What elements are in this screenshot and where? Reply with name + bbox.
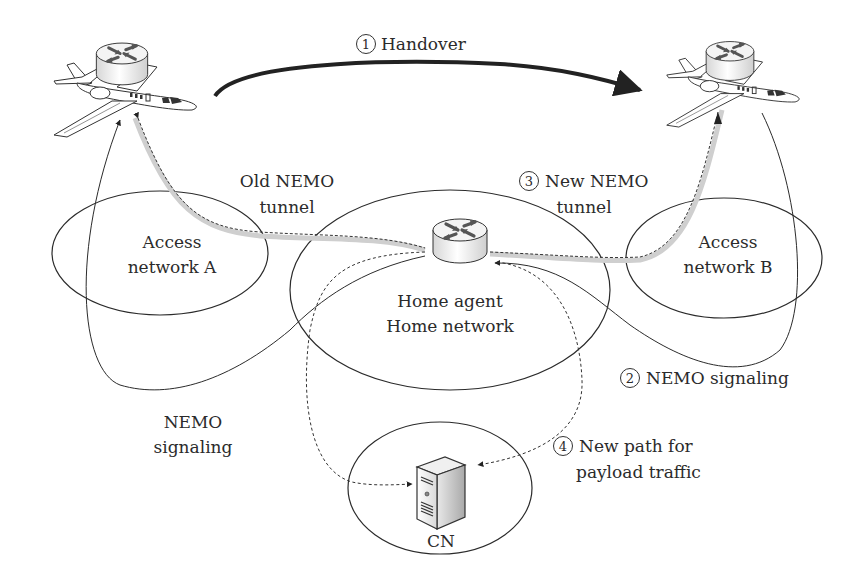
payload-path-left [306,252,425,485]
server-icon [417,457,465,529]
step-2-nemo-signaling-label: 2 NEMO signaling [621,368,789,388]
access-network-a-line2: network A [128,257,217,277]
nemo-handover-diagram: 1 Handover Old NEMO tunnel 3 New NEMO tu… [0,0,861,581]
mobile-network-old-airplane [54,43,196,137]
access-network-b-line1: Access [698,232,758,252]
handover-label: Handover [381,34,467,54]
step-number: 1 [362,37,370,52]
cn-label: CN [427,531,455,551]
access-network-a-line1: Access [142,232,202,252]
step-4-new-path-label: 4 New path for payload traffic [554,436,701,482]
access-network-b-line2: network B [684,257,773,277]
new-path-label-line1: New path for [579,436,694,456]
old-tunnel-label-line1: Old NEMO [240,171,334,191]
home-agent-router-icon [433,219,487,263]
step-number: 2 [626,371,634,386]
nemo-signaling-left-line1: NEMO [164,412,223,432]
nemo-signaling-left-line2: signaling [154,437,233,457]
old-tunnel-label-line2: tunnel [259,197,314,217]
new-tunnel-label-line2: tunnel [556,197,611,217]
nemo-signaling-left [86,120,425,390]
mobile-router-icon [706,42,754,81]
step-1-handover-label: 1 Handover [357,34,467,54]
mobile-network-new-airplane [667,42,799,128]
mobile-router-icon [96,43,147,85]
handover-arrow [215,62,640,96]
nemo-signaling-right-label: NEMO signaling [646,368,789,388]
home-agent-label: Home agent [397,291,503,311]
access-network-a-ellipse [52,191,268,315]
home-network-label: Home network [386,316,514,336]
step-number: 3 [525,174,533,189]
step-3-new-tunnel-label: 3 New NEMO tunnel [520,171,649,217]
new-tunnel-label-line1: New NEMO [545,171,649,191]
step-number: 4 [559,439,567,454]
new-path-label-line2: payload traffic [576,462,701,482]
